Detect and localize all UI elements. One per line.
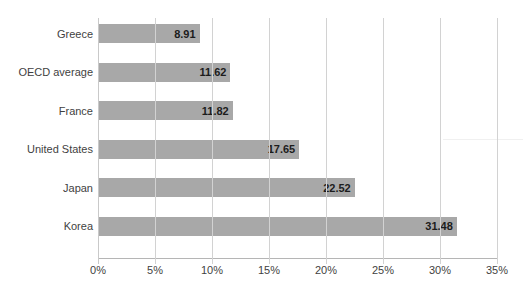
gridline-5% (155, 18, 156, 264)
bar-value-label: 8.91 (174, 28, 195, 40)
bar[interactable]: 8.91 (98, 24, 200, 43)
category-label: OECD average (18, 66, 93, 78)
x-axis-line (98, 258, 497, 259)
gridline-10% (212, 18, 213, 264)
bar-row[interactable]: United States17.65 (98, 139, 497, 160)
category-label: Japan (63, 182, 93, 194)
bar-row[interactable]: France11.82 (98, 100, 497, 121)
gridline-20% (326, 18, 327, 264)
plot-area: Greece8.91OECD average11.62France11.82Un… (98, 18, 497, 258)
gridline-25% (383, 18, 384, 264)
category-label: Greece (57, 28, 93, 40)
category-label: Korea (64, 220, 93, 232)
gridline-0% (98, 18, 99, 264)
bar[interactable]: 22.52 (98, 178, 355, 197)
x-tick-label: 10% (201, 264, 223, 276)
category-label: United States (27, 143, 93, 155)
bar[interactable]: 31.48 (98, 217, 457, 236)
x-tick-label: 20% (315, 264, 337, 276)
x-tick-label: 0% (90, 264, 106, 276)
gridline-15% (269, 18, 270, 264)
bar-row[interactable]: Greece8.91 (98, 23, 497, 44)
x-tick-label: 30% (429, 264, 451, 276)
x-tick-label: 35% (486, 264, 508, 276)
x-tick-label: 5% (147, 264, 163, 276)
gridline-35% (497, 18, 498, 264)
gridline-30% (440, 18, 441, 264)
category-label: France (59, 105, 93, 117)
bar-value-label: 17.65 (268, 143, 296, 155)
x-tick-label: 25% (372, 264, 394, 276)
bar[interactable]: 11.62 (98, 63, 230, 82)
x-tick-label: 15% (258, 264, 280, 276)
bar-value-label: 22.52 (323, 182, 351, 194)
chart-title (0, 0, 525, 3)
bar-chart: Greece8.91OECD average11.62France11.82Un… (0, 0, 525, 290)
bar-row[interactable]: Korea31.48 (98, 216, 497, 237)
bar-value-label: 11.82 (202, 105, 229, 117)
bar-row[interactable]: OECD average11.62 (98, 62, 497, 83)
bar-row[interactable]: Japan22.52 (98, 177, 497, 198)
